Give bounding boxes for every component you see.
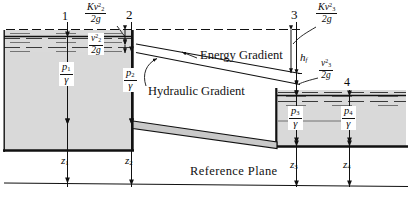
entrance-loss-denominator: 2g xyxy=(85,13,106,24)
pressure-head-3-denominator: γ xyxy=(289,118,302,130)
exit-loss-term: Kv23 2g xyxy=(315,2,338,25)
connecting-pipe xyxy=(133,121,277,149)
velocity-head-2-term: v22 2g xyxy=(88,33,104,55)
left-reservoir xyxy=(3,30,134,152)
elevation-head-4-label: z4 xyxy=(343,159,351,171)
pressure-head-2-denominator: γ xyxy=(124,80,137,92)
pressure-head-1-denominator: γ xyxy=(60,74,73,86)
hydraulic-gradient-label: Hydraulic Gradient xyxy=(148,84,245,99)
pressure-head-1-term: p1 γ xyxy=(59,62,74,86)
entrance-loss-term: Kv22 2g xyxy=(84,2,107,25)
leader-velocity-head-3 xyxy=(299,78,318,84)
pressure-head-4-numerator: p4 xyxy=(342,106,355,117)
velocity-head-3-term: v23 2g xyxy=(318,58,334,80)
elevation-head-1-label: z1 xyxy=(61,155,69,167)
velocity-head-3-denominator: 2g xyxy=(319,70,333,81)
reference-plane-line xyxy=(4,183,408,187)
reference-plane-label: Reference Plane xyxy=(190,164,278,179)
pressure-head-3-term: p3 γ xyxy=(288,106,303,130)
station-label-3: 3 xyxy=(291,7,298,23)
pressure-head-3-numerator: p3 xyxy=(289,106,302,117)
friction-loss-label: hf xyxy=(300,52,307,64)
pressure-head-4-term: p4 γ xyxy=(341,106,356,130)
station-label-4: 4 xyxy=(344,75,350,90)
exit-loss-numerator: Kv23 xyxy=(316,2,337,12)
station-label-2: 2 xyxy=(126,7,133,23)
entrance-loss-numerator: Kv22 xyxy=(85,2,106,12)
pressure-head-2-term: p2 γ xyxy=(123,68,138,92)
station-label-1: 1 xyxy=(62,9,68,24)
elevation-head-2-label: z2 xyxy=(125,155,133,167)
exit-loss-denominator: 2g xyxy=(316,13,337,24)
pressure-head-2-numerator: p2 xyxy=(124,68,137,79)
leader-hydraulic-gradient xyxy=(144,59,157,87)
velocity-head-2-numerator: v22 xyxy=(89,33,103,44)
hydraulics-energy-gradient-figure: 1 2 3 4 Kv22 2g v22 2g Kv23 2g v23 2g hf… xyxy=(0,0,410,215)
pressure-head-4-denominator: γ xyxy=(342,118,355,130)
energy-gradient-label: Energy Gradient xyxy=(200,48,283,63)
elevation-head-3-label: z3 xyxy=(290,159,298,171)
velocity-head-3-numerator: v23 xyxy=(319,58,333,69)
velocity-head-2-denominator: 2g xyxy=(89,45,103,56)
pressure-head-1-numerator: p1 xyxy=(60,62,73,73)
